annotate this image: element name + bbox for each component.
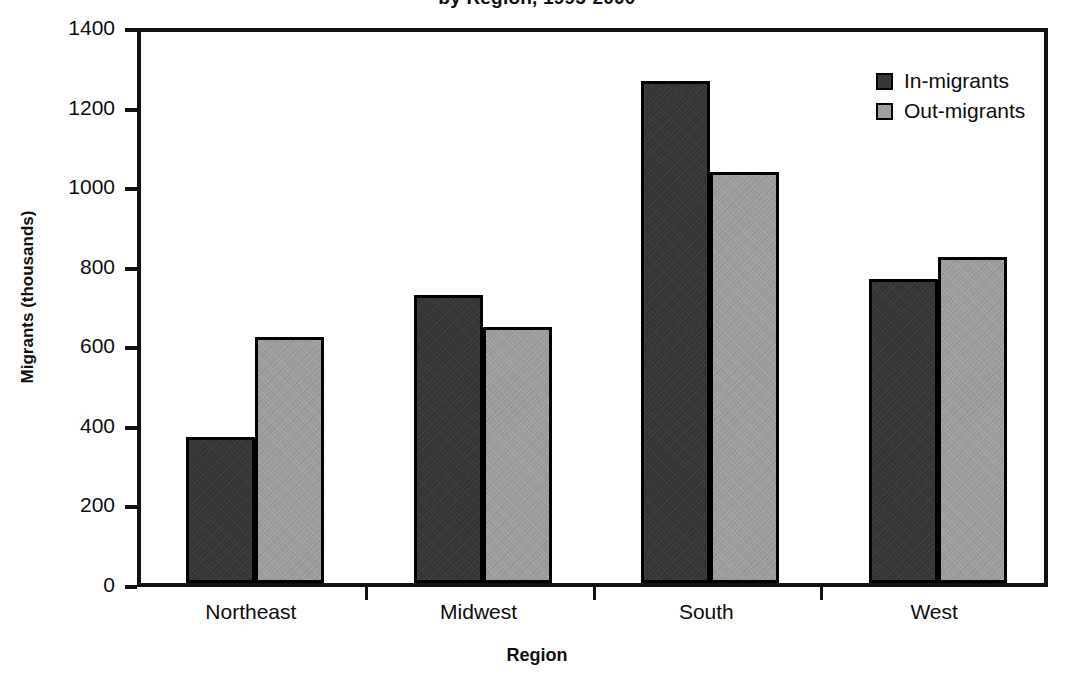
y-axis-tick-label: 1400 — [68, 16, 115, 40]
x-axis-tick-mark — [820, 587, 823, 600]
y-axis-tick-mark — [125, 108, 137, 112]
x-axis-title: Region — [0, 645, 1074, 666]
x-axis-label-northeast: Northeast — [137, 600, 365, 624]
y-axis-tick-label: 200 — [80, 493, 115, 517]
bar-midwest-out-migrants — [483, 327, 552, 583]
chart-legend: In-migrantsOut-migrants — [876, 68, 1025, 128]
legend-swatch-icon — [876, 73, 893, 90]
y-axis-tick-mark — [125, 187, 137, 191]
y-axis-tick-mark — [125, 346, 137, 350]
x-axis-label-south: South — [593, 600, 821, 624]
legend-item-in-migrants[interactable]: In-migrants — [876, 68, 1025, 94]
legend-item-label: Out-migrants — [904, 99, 1025, 123]
legend-swatch-icon — [876, 103, 893, 120]
bar-west-in-migrants — [869, 279, 938, 583]
y-axis-tick-mark — [125, 585, 137, 589]
x-axis-label-midwest: Midwest — [365, 600, 593, 624]
y-axis-tick-mark — [125, 267, 137, 271]
bar-south-out-migrants — [710, 172, 779, 583]
bar-west-out-migrants — [938, 257, 1007, 583]
y-axis-tick-label: 800 — [80, 255, 115, 279]
bar-south-in-migrants — [641, 81, 710, 583]
x-axis-label-west: West — [820, 600, 1048, 624]
x-axis-tick-mark — [593, 587, 596, 600]
y-axis-tick-label: 400 — [80, 414, 115, 438]
chart-title: by Region, 1995-2000 — [0, 0, 1074, 9]
y-axis-tick-mark — [125, 505, 137, 509]
y-axis-title: Migrants (thousands) — [18, 177, 38, 417]
y-axis-tick-mark — [125, 28, 137, 32]
legend-item-label: In-migrants — [904, 69, 1009, 93]
x-axis-tick-mark — [365, 587, 368, 600]
legend-item-out-migrants[interactable]: Out-migrants — [876, 98, 1025, 124]
chart-figure: by Region, 1995-2000 Migrants (thousands… — [0, 0, 1074, 680]
bar-northeast-in-migrants — [186, 437, 255, 583]
bar-northeast-out-migrants — [255, 337, 324, 583]
y-axis-tick-label: 0 — [103, 573, 115, 597]
y-axis-tick-label: 1000 — [68, 175, 115, 199]
y-axis-tick-label: 600 — [80, 334, 115, 358]
y-axis-tick-label: 1200 — [68, 96, 115, 120]
bar-midwest-in-migrants — [414, 295, 483, 583]
y-axis-tick-mark — [125, 426, 137, 430]
